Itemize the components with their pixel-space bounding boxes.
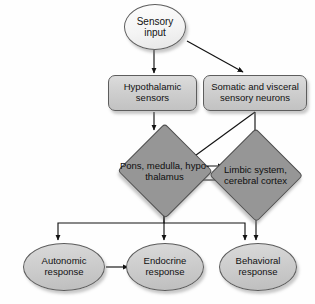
node-sensory-input-label: Sensory input: [137, 16, 174, 38]
node-limbic-system-cerebral-cortex-label: Limbic system, cerebral cortex: [210, 130, 301, 220]
node-somatic-visceral-sensory-neurons-label: Somatic and visceral sensory neurons: [211, 82, 299, 103]
node-behavioral-response-label: Behavioral response: [236, 256, 281, 277]
edge-pons-to-behavioral: [164, 223, 245, 240]
node-sensory-input[interactable]: Sensory input: [124, 4, 186, 50]
node-endocrine-response-label: Endocrine response: [144, 256, 187, 277]
edge-pons-to-autonomic: [58, 213, 164, 240]
node-hypothalamic-sensors-label: Hypothalamic sensors: [124, 82, 182, 103]
diagram-canvas: Sensory input Hypothalamic sensors Somat…: [0, 0, 315, 304]
node-autonomic-response[interactable]: Autonomic response: [23, 243, 105, 291]
node-limbic-system-cerebral-cortex[interactable]: Limbic system, cerebral cortex: [210, 130, 301, 220]
node-behavioral-response[interactable]: Behavioral response: [219, 243, 297, 291]
node-autonomic-response-label: Autonomic response: [42, 256, 87, 277]
node-somatic-visceral-sensory-neurons[interactable]: Somatic and visceral sensory neurons: [203, 75, 307, 111]
node-endocrine-response[interactable]: Endocrine response: [126, 243, 204, 291]
node-pons-medulla-hypothalamus[interactable]: Pons, medulla, hypo- thalamus: [118, 125, 211, 217]
node-pons-medulla-hypothalamus-label: Pons, medulla, hypo- thalamus: [118, 125, 211, 217]
node-hypothalamic-sensors[interactable]: Hypothalamic sensors: [108, 75, 197, 111]
edge-sensory-to-somatic: [187, 41, 243, 72]
